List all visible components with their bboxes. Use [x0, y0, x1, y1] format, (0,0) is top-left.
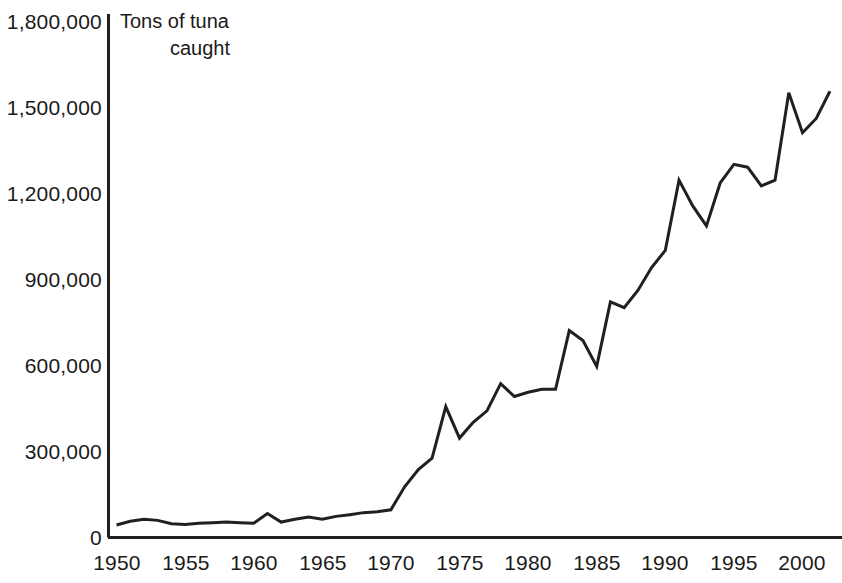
x-tick-label-1985: 1985: [573, 552, 621, 573]
x-tick-label-1995: 1995: [710, 552, 758, 573]
x-tick-label-1960: 1960: [230, 552, 278, 573]
x-tick-label-1950: 1950: [93, 552, 141, 573]
x-tick-label-1975: 1975: [436, 552, 484, 573]
x-tick-label-1955: 1955: [162, 552, 210, 573]
x-tick-label-1980: 1980: [504, 552, 552, 573]
data-series-line: [117, 91, 830, 525]
tuna-catch-line-chart: 1,800,000 1,500,000 1,200,000 900,000 60…: [0, 0, 842, 583]
x-tick-label-1990: 1990: [641, 552, 689, 573]
x-tick-label-1965: 1965: [299, 552, 347, 573]
plot-area: [0, 0, 842, 583]
x-tick-label-2000: 2000: [778, 552, 826, 573]
x-tick-label-1970: 1970: [367, 552, 415, 573]
